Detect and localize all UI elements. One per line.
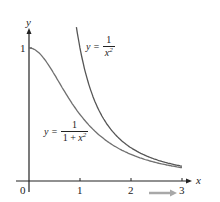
- curve2-label-numerator: 1: [70, 120, 79, 131]
- curve2-label-exponent: 2: [83, 131, 87, 139]
- x-tick-label-1: 1: [77, 185, 83, 196]
- curve1-label-exponent: 2: [109, 46, 113, 54]
- origin-label: 0: [20, 185, 26, 196]
- x-tick-label-2: 2: [128, 185, 134, 196]
- x-tick-label-3: 3: [179, 185, 185, 196]
- curve1-label: y = 1 x2: [86, 35, 115, 58]
- y-axis-arrow-icon: [27, 28, 32, 34]
- curve-1-over-1-plus-x-squared: [29, 48, 182, 168]
- gray-arrow-icon: [170, 190, 177, 197]
- y-axis-label: y: [26, 17, 31, 28]
- chart-canvas: [0, 0, 220, 202]
- curve2-label: y = 1 1 + x2: [44, 120, 88, 143]
- curve2-label-denominator-prefix: 1 +: [63, 132, 79, 143]
- curve1-label-lhs: y =: [86, 41, 100, 52]
- curve2-label-lhs: y =: [44, 126, 58, 137]
- y-tick-label-1: 1: [20, 43, 26, 54]
- x-axis-label: x: [196, 175, 201, 186]
- x-axis-arrow-icon: [186, 179, 192, 184]
- curve1-label-numerator: 1: [104, 35, 113, 46]
